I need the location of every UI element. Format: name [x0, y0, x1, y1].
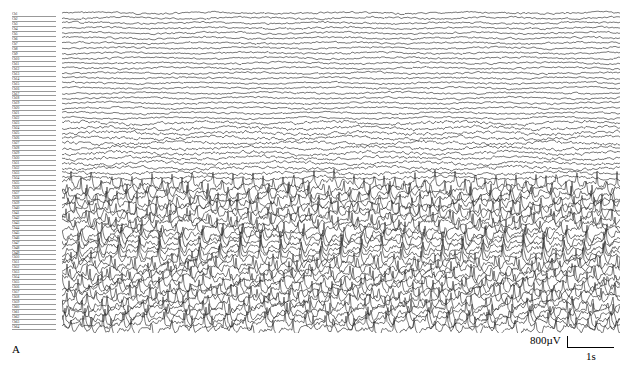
amplitude-scale-label: 800µV — [530, 334, 561, 346]
eeg-trace-plot — [62, 8, 620, 333]
scale-bar — [567, 336, 614, 348]
time-scale-label: 1s — [586, 350, 596, 362]
channel-label: Ch64 — [12, 325, 56, 330]
channel-label-column: Ch1Ch2Ch3Ch4Ch5Ch6Ch7Ch8Ch9Ch10Ch11Ch12C… — [12, 12, 56, 330]
panel-letter: A — [12, 343, 20, 355]
